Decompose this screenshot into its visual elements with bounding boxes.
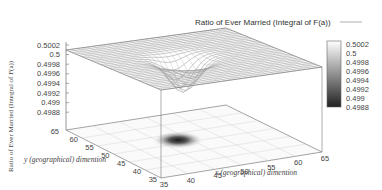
z-tick-label: 0.4998 [37, 60, 60, 69]
x-axis-label: x (geographical) dimention [214, 168, 297, 177]
z-tick-label: 0.4992 [37, 89, 60, 98]
colorbox-tick-label: 0.4992 [346, 85, 369, 94]
heatmap-dark-spot [152, 131, 204, 149]
z-tick-label: 0.4988 [37, 108, 60, 117]
colorbox-tick-label: 0.4996 [346, 67, 369, 76]
z-tick-label: 0.5002 [37, 41, 60, 50]
colorbox-tick-label: 0.499 [346, 94, 365, 103]
y-tick-label: 45 [117, 159, 125, 168]
y-tick-label: 65 [51, 127, 59, 136]
x-tick-label: 60 [294, 158, 302, 167]
x-tick-label: 35 [160, 180, 168, 189]
z-axis-ticks: 0.50020.50.49980.49960.49940.49920.4990.… [37, 41, 69, 117]
y-tick-label: 35 [149, 175, 157, 184]
y-axis-label: y (geographical) dimention [23, 155, 106, 164]
z-tick-label: 0.4996 [37, 69, 60, 78]
colorbox-tick-label: 0.5 [346, 49, 356, 58]
z-axis-label: Ratio of Ever Married (Integral of F(a)) [7, 60, 15, 172]
z-tick-label: 0.499 [41, 98, 60, 107]
colorbox-tick-label: 0.4988 [346, 103, 369, 112]
surface-mesh [66, 28, 322, 92]
chart-title: Ratio of Ever Married (Integral of F(a)) [195, 18, 331, 27]
y-tick-label: 60 [69, 135, 77, 144]
colorbox-tick-label: 0.4994 [346, 76, 369, 85]
x-tick-label: 40 [187, 176, 195, 185]
y-tick-label: 55 [85, 143, 93, 152]
surface-plot: Ratio of Ever Married (Integral of F(a))… [0, 0, 382, 190]
colorbox-tick-label: 0.4998 [346, 58, 369, 67]
x-tick-label: 65 [321, 154, 329, 163]
colorbox [327, 41, 341, 107]
colorbox-ticks: 0.50020.50.49980.49960.49940.49920.4990.… [346, 40, 369, 112]
colorbox-tick-label: 0.5002 [346, 40, 369, 49]
y-tick-label: 40 [133, 167, 141, 176]
z-tick-label: 0.5 [50, 50, 60, 59]
z-tick-label: 0.4994 [37, 79, 60, 88]
